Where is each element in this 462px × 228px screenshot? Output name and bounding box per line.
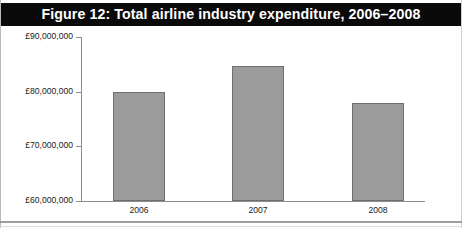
y-axis-tick: [76, 92, 81, 93]
y-axis-label-wrap: £90,000,000: [9, 32, 73, 42]
chart-plot-area: £90,000,000 £80,000,000 £70,000,000 £60,…: [0, 26, 462, 221]
y-axis-label-wrap: £80,000,000: [9, 87, 73, 97]
x-axis-tick-label-2008: 2008: [343, 206, 413, 215]
page-frame-bottom-border: [0, 221, 462, 223]
y-axis-tick: [76, 146, 81, 147]
y-axis-tick: [76, 37, 81, 38]
y-axis-tick-label: £80,000,000: [13, 87, 73, 96]
figure-title-text: Figure 12: Total airline industry expend…: [41, 7, 420, 21]
x-axis-tick-label-2007: 2007: [223, 206, 293, 215]
page-frame-bottom-border-secondary: [0, 226, 462, 227]
bar-2007: [232, 66, 284, 201]
y-axis-tick-label: £90,000,000: [13, 32, 73, 41]
y-axis-line: [81, 37, 82, 202]
y-axis-tick-label: £60,000,000: [13, 196, 73, 205]
y-axis-label-wrap: £60,000,000: [9, 196, 73, 206]
y-axis-tick: [76, 201, 81, 202]
x-axis-tick-label-2006: 2006: [104, 206, 174, 215]
y-axis-tick-label: £70,000,000: [13, 141, 73, 150]
x-axis-line: [81, 201, 425, 202]
y-axis-label-wrap: £70,000,000: [9, 141, 73, 151]
bar-2008: [352, 103, 404, 201]
figure-title-banner: Figure 12: Total airline industry expend…: [1, 3, 461, 26]
bar-2006: [113, 92, 165, 201]
figure-container: Figure 12: Total airline industry expend…: [0, 0, 462, 228]
